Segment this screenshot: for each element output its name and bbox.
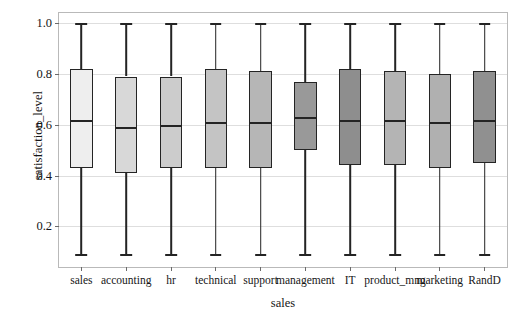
- plot-area: 0.20.40.60.81.0salesaccountinghrtechnica…: [58, 12, 508, 268]
- lower-whisker-cap: [389, 254, 401, 256]
- x-tick-mark: [439, 267, 440, 271]
- y-tick-mark: [55, 125, 59, 126]
- x-tick-mark: [81, 267, 82, 271]
- upper-whisker-cap: [434, 23, 446, 25]
- median-line: [339, 120, 361, 122]
- box-plot-item[interactable]: [339, 13, 361, 267]
- lower-whisker: [439, 168, 441, 254]
- median-line: [294, 117, 316, 119]
- box-plot-item[interactable]: [429, 13, 451, 267]
- upper-whisker-cap: [120, 23, 132, 25]
- box-iqr-rect[interactable]: [384, 71, 406, 165]
- box-plot-item[interactable]: [294, 13, 316, 267]
- x-tick-mark: [484, 267, 485, 271]
- lower-whisker: [81, 168, 83, 254]
- box-iqr-rect[interactable]: [160, 77, 182, 168]
- upper-whisker-cap: [210, 23, 222, 25]
- lower-whisker: [125, 173, 127, 254]
- x-tick-label: management: [276, 274, 335, 286]
- x-tick-label: IT: [345, 274, 356, 286]
- upper-whisker: [81, 23, 83, 69]
- lower-whisker: [170, 168, 172, 254]
- x-tick-mark: [126, 267, 127, 271]
- y-tick-label: 1.0: [36, 16, 52, 31]
- median-line: [115, 127, 137, 129]
- box-plot-item[interactable]: [384, 13, 406, 267]
- x-tick-mark: [215, 267, 216, 271]
- y-tick-mark: [55, 226, 59, 227]
- y-tick-label: 0.6: [36, 117, 52, 132]
- upper-whisker: [215, 23, 217, 69]
- box-plot-item[interactable]: [160, 13, 182, 267]
- lower-whisker: [305, 150, 307, 254]
- lower-whisker-cap: [479, 254, 491, 256]
- upper-whisker: [125, 23, 127, 76]
- y-tick-mark: [55, 23, 59, 24]
- lower-whisker-cap: [210, 254, 222, 256]
- x-axis-title: sales: [58, 296, 508, 311]
- median-line: [249, 122, 271, 124]
- x-tick-label: marketing: [416, 274, 463, 286]
- upper-whisker-cap: [479, 23, 491, 25]
- lower-whisker: [484, 163, 486, 254]
- upper-whisker: [170, 23, 172, 76]
- x-tick-mark: [171, 267, 172, 271]
- box-plot-item[interactable]: [115, 13, 137, 267]
- y-tick-label: 0.2: [36, 219, 52, 234]
- median-line: [160, 125, 182, 127]
- upper-whisker-cap: [300, 23, 312, 25]
- y-tick-label: 0.4: [36, 168, 52, 183]
- box-iqr-rect[interactable]: [249, 71, 271, 168]
- upper-whisker-cap: [344, 23, 356, 25]
- upper-whisker-cap: [165, 23, 177, 25]
- upper-whisker: [305, 23, 307, 81]
- x-tick-label: hr: [166, 274, 176, 286]
- x-tick-label: accounting: [101, 274, 151, 286]
- lower-whisker-cap: [300, 254, 312, 256]
- x-tick-label: technical: [195, 274, 237, 286]
- x-tick-label: RandD: [468, 274, 501, 286]
- y-tick-mark: [55, 176, 59, 177]
- upper-whisker: [439, 23, 441, 74]
- median-line: [384, 120, 406, 122]
- box-plot-item[interactable]: [473, 13, 495, 267]
- box-iqr-rect[interactable]: [429, 74, 451, 168]
- box-plot-item[interactable]: [249, 13, 271, 267]
- x-tick-mark: [395, 267, 396, 271]
- lower-whisker: [260, 168, 262, 254]
- median-line: [429, 122, 451, 124]
- lower-whisker-cap: [120, 254, 132, 256]
- lower-whisker: [394, 165, 396, 254]
- box-iqr-rect[interactable]: [70, 69, 92, 168]
- upper-whisker: [394, 23, 396, 71]
- upper-whisker: [484, 23, 486, 71]
- box-iqr-rect[interactable]: [294, 82, 316, 151]
- y-tick-label: 0.8: [36, 66, 52, 81]
- x-tick-mark: [350, 267, 351, 271]
- box-iqr-rect[interactable]: [205, 69, 227, 168]
- upper-whisker-cap: [76, 23, 88, 25]
- lower-whisker-cap: [165, 254, 177, 256]
- box-plot-figure: satisfaction_level 0.20.40.60.81.0salesa…: [0, 0, 515, 321]
- median-line: [70, 120, 92, 122]
- box-iqr-rect[interactable]: [339, 69, 361, 166]
- upper-whisker: [260, 23, 262, 71]
- lower-whisker: [349, 165, 351, 254]
- box-iqr-rect[interactable]: [115, 77, 137, 174]
- box-plot-item[interactable]: [70, 13, 92, 267]
- box-plot-item[interactable]: [205, 13, 227, 267]
- y-axis-title: satisfaction_level: [31, 26, 46, 246]
- x-tick-label: support: [243, 274, 278, 286]
- x-tick-label: sales: [70, 274, 92, 286]
- lower-whisker-cap: [434, 254, 446, 256]
- lower-whisker: [215, 168, 217, 254]
- lower-whisker-cap: [255, 254, 267, 256]
- box-iqr-rect[interactable]: [473, 71, 495, 162]
- x-tick-mark: [260, 267, 261, 271]
- lower-whisker-cap: [76, 254, 88, 256]
- y-tick-mark: [55, 74, 59, 75]
- median-line: [205, 122, 227, 124]
- upper-whisker-cap: [255, 23, 267, 25]
- x-tick-mark: [305, 267, 306, 271]
- median-line: [473, 120, 495, 122]
